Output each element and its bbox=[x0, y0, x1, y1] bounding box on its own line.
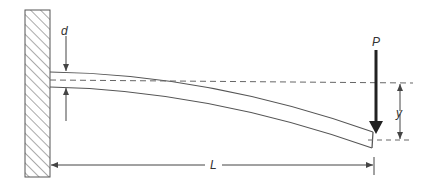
length-dimension: L bbox=[51, 157, 374, 175]
reference-dashed-line bbox=[50, 80, 413, 83]
load-arrow: P bbox=[369, 35, 383, 134]
beam bbox=[50, 72, 373, 148]
fixed-wall bbox=[25, 10, 50, 177]
deflection-dimension: y bbox=[395, 84, 403, 139]
deflection-label: y bbox=[395, 106, 403, 120]
depth-label: d bbox=[61, 24, 68, 38]
cantilever-diagram: d P y L bbox=[0, 0, 434, 186]
length-label: L bbox=[210, 158, 217, 172]
load-label: P bbox=[372, 35, 380, 49]
